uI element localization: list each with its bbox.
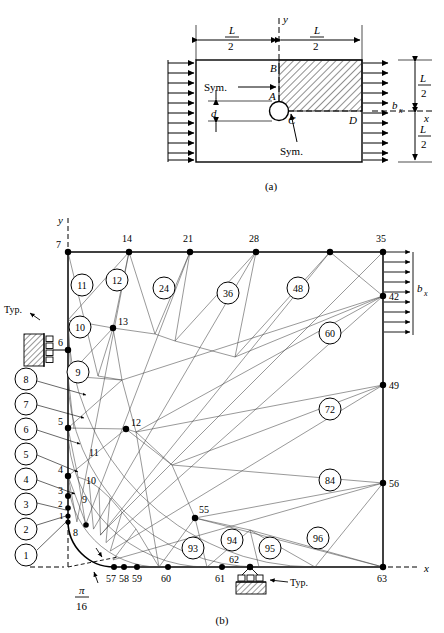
node-dot bbox=[83, 522, 89, 528]
dim-top-right-num: L bbox=[313, 24, 320, 36]
left-edge-load-arrows bbox=[168, 60, 194, 162]
node-label-12: 12 bbox=[131, 417, 141, 428]
panel-a-load-label: b bbox=[392, 99, 398, 111]
point-c-label: C bbox=[288, 114, 296, 126]
modelled-quadrant-hatch bbox=[279, 60, 362, 111]
support-left-label: Typ. bbox=[4, 304, 22, 315]
element-label-6: 6 bbox=[24, 424, 29, 435]
node-label-1: 1 bbox=[59, 511, 64, 521]
node-label-58: 58 bbox=[119, 573, 129, 584]
node-label-6: 6 bbox=[58, 337, 63, 348]
element-label-48: 48 bbox=[293, 283, 303, 294]
node-dot bbox=[65, 425, 71, 431]
element-label-94: 94 bbox=[227, 535, 237, 546]
panel-b-svg: y x b x Typ. bbox=[0, 200, 444, 633]
element-label-2: 2 bbox=[24, 524, 29, 535]
caption-b: (b) bbox=[216, 614, 229, 627]
element-label-12: 12 bbox=[112, 275, 122, 286]
node-label-28: 28 bbox=[249, 233, 259, 244]
dim-top-left-den: 2 bbox=[228, 40, 234, 52]
element-label-5: 5 bbox=[24, 449, 29, 460]
node-label-9: 9 bbox=[82, 494, 87, 505]
element-label-11: 11 bbox=[77, 280, 87, 291]
node-dot bbox=[327, 249, 333, 255]
dim-right-bot-num: L bbox=[419, 123, 426, 135]
element-label-4: 4 bbox=[24, 474, 29, 485]
node-label-35: 35 bbox=[376, 233, 386, 244]
node-label-62: 62 bbox=[229, 554, 239, 565]
node-label-13: 13 bbox=[118, 316, 128, 327]
node-dot bbox=[380, 382, 386, 388]
node-label-3: 3 bbox=[58, 485, 63, 496]
dim-right-top-den: 2 bbox=[421, 87, 427, 99]
node-dot bbox=[192, 515, 198, 521]
node-label-8: 8 bbox=[73, 527, 78, 538]
element-label-95: 95 bbox=[265, 543, 275, 554]
angle-den: 16 bbox=[76, 600, 88, 612]
node-label-21: 21 bbox=[183, 233, 193, 244]
node-label-57: 57 bbox=[106, 573, 116, 584]
support-bottom bbox=[236, 567, 288, 594]
node-dot bbox=[65, 249, 71, 255]
node-dot bbox=[380, 293, 386, 299]
dim-hole-diameter bbox=[208, 90, 272, 132]
node-dot bbox=[111, 564, 117, 570]
panel-a-y-label: y bbox=[282, 13, 288, 25]
element-label-72: 72 bbox=[325, 404, 335, 415]
dim-top-left bbox=[196, 25, 277, 60]
node-label-7: 7 bbox=[56, 239, 61, 250]
node-dot bbox=[65, 505, 71, 511]
element-label-1: 1 bbox=[24, 550, 29, 561]
element-label-96: 96 bbox=[313, 533, 323, 544]
panel-b-load-sub: x bbox=[423, 289, 428, 298]
node-dot bbox=[121, 564, 127, 570]
dim-right-top-num: L bbox=[419, 72, 426, 84]
dim-right-bot-den: 2 bbox=[421, 138, 427, 150]
node-dot bbox=[126, 249, 132, 255]
element-label-9: 9 bbox=[76, 367, 81, 378]
element-label-3: 3 bbox=[24, 499, 29, 510]
element-label-7: 7 bbox=[24, 399, 29, 410]
element-label-93: 93 bbox=[188, 543, 198, 554]
node-dot bbox=[247, 564, 253, 570]
node-dot bbox=[110, 325, 116, 331]
node-label-61: 61 bbox=[215, 573, 225, 584]
node-dot bbox=[65, 513, 70, 518]
element-label-84: 84 bbox=[325, 475, 335, 486]
node-dot bbox=[123, 426, 129, 432]
hole-circle bbox=[270, 102, 289, 121]
node-label-59: 59 bbox=[132, 573, 142, 584]
node-dot bbox=[380, 480, 386, 486]
node-label-63: 63 bbox=[377, 573, 387, 584]
point-b-label: B bbox=[270, 62, 277, 74]
panel-a-load-sub: x bbox=[398, 106, 403, 115]
sym-left-label: Sym. bbox=[204, 81, 227, 93]
dim-top-right-den: 2 bbox=[313, 40, 319, 52]
dim-top-left-num: L bbox=[228, 24, 235, 36]
node-dot bbox=[187, 249, 193, 255]
node-label-2: 2 bbox=[58, 499, 63, 509]
point-a-label: A bbox=[268, 90, 276, 102]
panel-b-y-label: y bbox=[57, 214, 63, 226]
node-label-42: 42 bbox=[389, 291, 399, 302]
element-label-10: 10 bbox=[75, 322, 85, 333]
node-label-60: 60 bbox=[161, 573, 171, 584]
node-dot bbox=[165, 564, 171, 570]
panel-b-load-label: b bbox=[417, 282, 423, 294]
sym-bottom-label: Sym. bbox=[280, 145, 303, 157]
node-label-14: 14 bbox=[122, 233, 132, 244]
element-label-36: 36 bbox=[223, 288, 233, 299]
node-dot bbox=[65, 473, 71, 479]
caption-a: (a) bbox=[265, 180, 278, 193]
panel-a-svg: y x L 2 L 2 bbox=[0, 0, 444, 200]
node-dot bbox=[65, 347, 71, 353]
element-label-8: 8 bbox=[24, 374, 29, 385]
node-dot bbox=[134, 564, 140, 570]
node-dot bbox=[380, 564, 386, 570]
node-label-5: 5 bbox=[58, 416, 63, 427]
angle-num: π bbox=[79, 584, 85, 596]
dim-top-right bbox=[281, 25, 362, 60]
node-dot bbox=[65, 493, 71, 499]
dim-hole-label: d bbox=[211, 107, 217, 119]
element-label-24: 24 bbox=[159, 283, 169, 294]
